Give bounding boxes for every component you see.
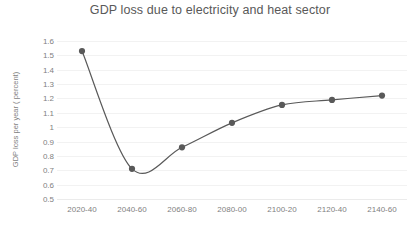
data-point-marker[interactable] <box>129 166 135 172</box>
y-tick-label: 0.5 <box>30 195 54 204</box>
x-tick-label: 2020-40 <box>67 205 96 214</box>
x-tick-label: 2040-60 <box>117 205 146 214</box>
y-axis-title-text: GDP loss per year ( percent) <box>12 72 21 167</box>
x-tick-label: 2100-20 <box>267 205 296 214</box>
x-tick-label: 2080-00 <box>217 205 246 214</box>
y-tick-label: 1.5 <box>30 51 54 60</box>
chart-title: GDP loss due to electricity and heat sec… <box>0 3 420 17</box>
y-tick-label: 1.4 <box>30 65 54 74</box>
y-tick-label: 1.1 <box>30 108 54 117</box>
y-tick-label: 0.6 <box>30 180 54 189</box>
plot-area <box>57 41 407 199</box>
y-tick-label: 0.7 <box>30 166 54 175</box>
y-axis-tick-labels: 0.50.60.70.80.911.11.21.31.41.51.6 <box>26 0 54 232</box>
y-tick-label: 1.6 <box>30 37 54 46</box>
data-point-marker[interactable] <box>179 144 185 150</box>
x-axis-tick-labels: 2020-402040-602060-802080-002100-202120-… <box>57 205 407 221</box>
data-point-marker[interactable] <box>79 48 85 54</box>
x-tick-label: 2120-40 <box>317 205 346 214</box>
data-point-marker[interactable] <box>379 92 385 98</box>
y-tick-label: 1 <box>30 123 54 132</box>
y-tick-label: 1.3 <box>30 80 54 89</box>
gdp-loss-line-chart: GDP loss due to electricity and heat sec… <box>0 0 420 232</box>
data-point-marker[interactable] <box>329 97 335 103</box>
x-tick-label: 2140-60 <box>367 205 396 214</box>
y-tick-label: 0.8 <box>30 151 54 160</box>
series-line <box>82 51 382 173</box>
y-tick-label: 1.2 <box>30 94 54 103</box>
x-tick-label: 2060-80 <box>167 205 196 214</box>
y-tick-label: 0.9 <box>30 137 54 146</box>
data-point-marker[interactable] <box>279 102 285 108</box>
y-axis-title: GDP loss per year ( percent) <box>8 42 24 197</box>
x-axis-line <box>57 199 407 200</box>
data-point-marker[interactable] <box>229 120 235 126</box>
series-gdp-loss <box>57 41 407 199</box>
